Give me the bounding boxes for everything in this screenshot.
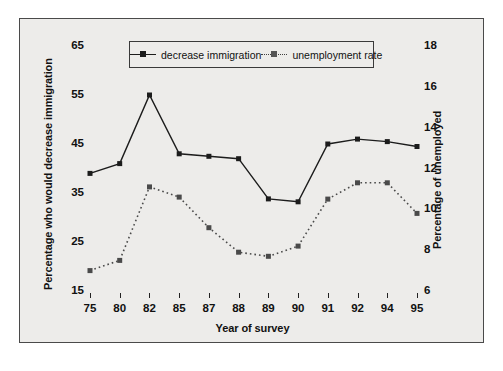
series-line-1 bbox=[90, 95, 417, 202]
data-point-s2-95[interactable] bbox=[415, 211, 420, 216]
series-line-2 bbox=[90, 183, 417, 271]
data-point-s2-87[interactable] bbox=[206, 225, 211, 230]
y-tick-left-45: 45 bbox=[58, 137, 84, 149]
data-point-s1-87[interactable] bbox=[206, 154, 211, 159]
x-tickmark-82 bbox=[149, 293, 150, 298]
data-point-s2-75[interactable] bbox=[88, 268, 93, 273]
y-axis-label-left: Percentage who would decrease immigratio… bbox=[42, 60, 54, 290]
data-point-s2-92[interactable] bbox=[355, 180, 360, 185]
chart-figure: Percentage who would decrease immigratio… bbox=[19, 18, 484, 343]
x-axis-label: Year of survey bbox=[20, 322, 485, 334]
x-tickmark-87 bbox=[209, 293, 210, 298]
x-tick-94: 94 bbox=[374, 302, 400, 314]
x-tickmark-85 bbox=[179, 293, 180, 298]
x-tickmark-75 bbox=[90, 293, 91, 298]
data-point-s1-88[interactable] bbox=[236, 156, 241, 161]
data-point-s1-85[interactable] bbox=[177, 151, 182, 156]
x-tick-92: 92 bbox=[345, 302, 371, 314]
data-point-s1-80[interactable] bbox=[117, 161, 122, 166]
legend-label-unemployment-rate: unemployment rate bbox=[292, 49, 382, 61]
x-tickmark-89 bbox=[268, 293, 269, 298]
legend-label-decrease-immigration: decrease immigration bbox=[161, 49, 261, 61]
data-point-s1-95[interactable] bbox=[415, 144, 420, 149]
x-tickmark-92 bbox=[358, 293, 359, 298]
y-tick-right-14: 14 bbox=[424, 121, 450, 133]
legend-line-dotted-icon bbox=[261, 50, 287, 59]
y-tick-right-8: 8 bbox=[424, 243, 450, 255]
x-tick-89: 89 bbox=[255, 302, 281, 314]
data-point-s2-85[interactable] bbox=[177, 195, 182, 200]
data-point-s1-75[interactable] bbox=[88, 171, 93, 176]
x-tickmark-95 bbox=[417, 293, 418, 298]
x-tick-85: 85 bbox=[166, 302, 192, 314]
data-point-s1-92[interactable] bbox=[355, 137, 360, 142]
y-tick-right-12: 12 bbox=[424, 162, 450, 174]
y-tick-right-6: 6 bbox=[424, 284, 450, 296]
x-tickmark-91 bbox=[328, 293, 329, 298]
data-point-s1-94[interactable] bbox=[385, 139, 390, 144]
data-point-s2-94[interactable] bbox=[385, 180, 390, 185]
data-point-s1-82[interactable] bbox=[147, 93, 152, 98]
data-point-s1-90[interactable] bbox=[296, 199, 301, 204]
x-tick-80: 80 bbox=[107, 302, 133, 314]
x-tickmark-90 bbox=[298, 293, 299, 298]
y-tick-right-10: 10 bbox=[424, 202, 450, 214]
x-tick-88: 88 bbox=[226, 302, 252, 314]
legend-item-decrease-immigration[interactable]: decrease immigration bbox=[130, 49, 261, 61]
data-point-s1-91[interactable] bbox=[325, 142, 330, 147]
y-tick-right-16: 16 bbox=[424, 80, 450, 92]
x-tickmark-80 bbox=[120, 293, 121, 298]
x-tick-90: 90 bbox=[285, 302, 311, 314]
y-tick-right-18: 18 bbox=[424, 39, 450, 51]
x-tickmark-94 bbox=[387, 293, 388, 298]
x-tick-82: 82 bbox=[136, 302, 162, 314]
data-point-s2-80[interactable] bbox=[117, 258, 122, 263]
y-tick-left-15: 15 bbox=[58, 284, 84, 296]
data-point-s2-89[interactable] bbox=[266, 254, 271, 259]
data-point-s2-90[interactable] bbox=[296, 244, 301, 249]
x-tickmark-88 bbox=[239, 293, 240, 298]
x-tick-87: 87 bbox=[196, 302, 222, 314]
chart-legend: decrease immigration unemployment rate bbox=[129, 41, 374, 68]
x-tick-91: 91 bbox=[315, 302, 341, 314]
legend-line-solid-icon bbox=[130, 50, 156, 59]
data-point-s2-91[interactable] bbox=[325, 197, 330, 202]
y-tick-left-55: 55 bbox=[58, 88, 84, 100]
y-tick-left-65: 65 bbox=[58, 39, 84, 51]
y-tick-left-35: 35 bbox=[58, 186, 84, 198]
data-point-s1-89[interactable] bbox=[266, 196, 271, 201]
x-tick-95: 95 bbox=[404, 302, 430, 314]
legend-item-unemployment-rate[interactable]: unemployment rate bbox=[261, 49, 382, 61]
data-point-s2-88[interactable] bbox=[236, 250, 241, 255]
data-point-s2-82[interactable] bbox=[147, 184, 152, 189]
x-tick-75: 75 bbox=[77, 302, 103, 314]
y-tick-left-25: 25 bbox=[58, 235, 84, 247]
